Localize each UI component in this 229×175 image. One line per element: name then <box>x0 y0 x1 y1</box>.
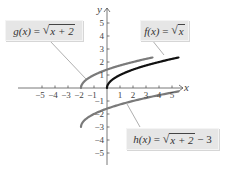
y-tick-label: 4 <box>100 31 105 41</box>
h-name: h(x) <box>133 133 151 145</box>
x-tick-label: 3 <box>144 90 149 100</box>
y-tick-label: 3 <box>100 44 105 54</box>
x-axis-label: x <box>183 81 189 93</box>
g-curve <box>81 58 153 88</box>
x-tick-label: 2 <box>131 90 136 100</box>
y-axis-label: y <box>96 3 102 15</box>
x-tick-label: −4 <box>48 90 58 100</box>
sqrt-symbol-icon: √ <box>171 23 178 38</box>
x-tick-label: 5 <box>170 90 175 100</box>
y-tick-label: −2 <box>94 109 104 119</box>
sqrt-symbol-icon: √ <box>163 132 170 147</box>
y-tick-label: −5 <box>94 148 104 158</box>
g-function-label: g(x) = √x + 2 <box>5 20 83 41</box>
y-tick-label: −1 <box>94 96 104 106</box>
g-leader-line <box>50 41 86 79</box>
y-tick-label: −3 <box>94 122 104 132</box>
y-tick-label: 2 <box>100 57 105 67</box>
h-function-label: h(x) = √x + 2 − 3 <box>126 128 219 150</box>
f-leader-line <box>152 40 164 55</box>
x-tick-label: −3 <box>61 90 71 100</box>
x-tick-label: 1 <box>118 90 123 100</box>
g-name: g(x) <box>13 25 31 37</box>
x-tick-label: −2 <box>74 90 84 100</box>
f-function-label: f(x) = √x <box>140 20 189 41</box>
y-tick-label: −4 <box>94 135 104 145</box>
f-name: f(x) <box>144 25 159 37</box>
sqrt-symbol-icon: √ <box>43 23 50 38</box>
y-tick-label: 1 <box>100 70 105 80</box>
x-tick-label: 4 <box>157 90 162 100</box>
y-tick-label: 5 <box>100 18 105 28</box>
x-tick-label: −5 <box>35 90 45 100</box>
f-curve <box>107 58 179 88</box>
h-leader-line <box>127 104 140 127</box>
